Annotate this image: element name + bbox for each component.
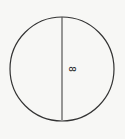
circle-diagram: 8 <box>0 0 125 139</box>
diameter-label: 8 <box>67 66 77 72</box>
